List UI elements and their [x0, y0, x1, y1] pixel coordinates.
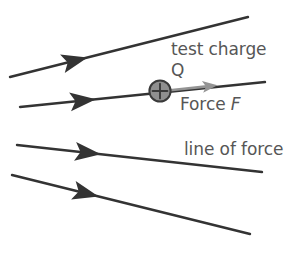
field-line-1-arrowhead — [60, 48, 90, 73]
line-of-force-label: line of force — [184, 141, 283, 159]
charge-symbol-label: Q — [171, 62, 184, 80]
field-line-4-arrowhead — [71, 181, 101, 206]
test-charge — [149, 80, 170, 101]
force-label-prefix: Force — [180, 94, 231, 114]
field-line-4-stroke — [12, 175, 250, 234]
force-label-symbol: F — [231, 94, 241, 114]
field-lines-diagram: test charge Q Force F line of force — [0, 0, 294, 256]
force-label: Force F — [180, 96, 241, 114]
field-line-4 — [12, 175, 250, 234]
test-charge-label: test charge — [171, 41, 266, 59]
